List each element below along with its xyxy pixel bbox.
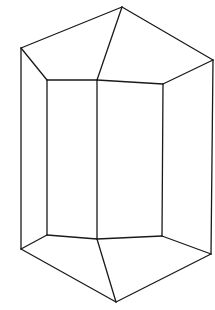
- edge-bottom_left-bottom_inner_left: [21, 235, 47, 249]
- edge-top_apex-top_inner_mid: [97, 7, 122, 80]
- edge-bottom_inner_right-bottom_right: [162, 236, 211, 254]
- edge-top_inner_right-bottom_inner_right: [162, 84, 163, 236]
- edge-bottom_inner_mid-bottom_inner_right: [97, 236, 162, 239]
- pentagonal-prism-wireframe: [0, 0, 215, 310]
- edge-top_right-bottom_right: [211, 60, 213, 254]
- edge-top_left-top_inner_left: [21, 48, 47, 80]
- prism-edges: [21, 7, 213, 302]
- edge-bottom_inner_left-bottom_inner_mid: [47, 235, 97, 239]
- edge-bottom_apex-bottom_right: [116, 254, 211, 302]
- edge-top_inner_mid-top_inner_right: [97, 80, 163, 84]
- diagram-canvas: [0, 0, 215, 310]
- edge-top_apex-top_right: [122, 7, 213, 60]
- edge-top_inner_right-top_right: [163, 60, 213, 84]
- edge-top_left-top_apex: [21, 7, 122, 48]
